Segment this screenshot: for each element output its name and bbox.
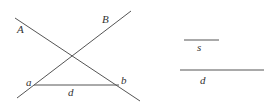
geometry-diagram bbox=[0, 0, 279, 109]
label-point-b: b bbox=[121, 75, 127, 86]
label-line-A: A bbox=[17, 24, 24, 35]
label-base-d: d bbox=[68, 87, 74, 98]
label-point-a: a bbox=[26, 77, 32, 88]
label-segment-s: s bbox=[197, 42, 201, 53]
label-line-B: B bbox=[102, 14, 109, 25]
label-segment-d: d bbox=[200, 75, 206, 86]
line-A bbox=[15, 18, 140, 101]
